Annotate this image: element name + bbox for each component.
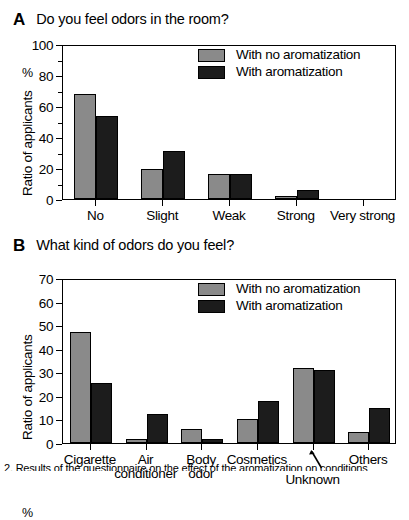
panel-b-y-tick-label: 10: [39, 414, 53, 427]
panel-a-x-tick: [95, 200, 96, 206]
legend-swatch-aromatization: [198, 300, 225, 313]
panel-a-y-tick-label: 80: [39, 70, 53, 83]
bar-weak-no-aromatization: [208, 174, 230, 199]
panel-b-heading: B What kind of odors do you feel?: [13, 234, 234, 256]
panel-a-y-axis: 020406080100: [0, 45, 62, 200]
panel-a-heading: A Do you feel odors in the room?: [13, 8, 229, 30]
legend-label: With no aromatization: [236, 48, 360, 62]
bar-air-conditioner-aromatization: [147, 414, 168, 443]
x-axis-label-no: No: [87, 209, 104, 223]
panel-a: A Do you feel odors in the room? % Ratio…: [0, 0, 409, 228]
x-axis-label-strong: Strong: [277, 209, 315, 223]
bar-cosmetics-aromatization: [258, 401, 279, 443]
bar-no-no-aromatization: [74, 94, 96, 199]
legend-swatch-no-aromatization: [198, 283, 225, 296]
panel-a-question: Do you feel odors in the room?: [36, 12, 228, 27]
bar-slight-no-aromatization: [141, 169, 163, 199]
legend-swatch-aromatization: [198, 66, 225, 79]
legend-item: With no aromatization: [198, 282, 360, 296]
legend-label: With aromatization: [236, 65, 342, 79]
panel-a-y-tick-label: 40: [39, 132, 53, 145]
panel-b-x-tick: [368, 444, 369, 450]
bar-cosmetics-no-aromatization: [237, 419, 258, 443]
bar-slight-aromatization: [163, 151, 185, 199]
bar-air-conditioner-no-aromatization: [126, 439, 147, 443]
bar-body-odor-no-aromatization: [181, 429, 202, 443]
bar-weak-aromatization: [230, 174, 252, 199]
panel-a-y-tick: [56, 200, 62, 201]
panel-b: B What kind of odors do you feel? % Rati…: [0, 226, 409, 471]
bar-others-no-aromatization: [348, 432, 369, 443]
bar-cigarette-aromatization: [91, 383, 112, 443]
panel-a-x-tick: [363, 200, 364, 206]
bar-unknown-aromatization: [314, 370, 335, 443]
legend-item: With aromatization: [198, 65, 360, 79]
panel-a-y-tick-label: 60: [39, 101, 53, 114]
legend-label: With no aromatization: [236, 282, 360, 296]
panel-a-letter: A: [13, 11, 25, 28]
panel-b-x-tick: [257, 444, 258, 450]
panel-b-x-tick: [146, 444, 147, 450]
panel-a-legend: With no aromatizationWith aromatization: [198, 48, 360, 82]
panel-b-letter: B: [13, 237, 25, 254]
panel-b-y-tick-label: 50: [39, 320, 53, 333]
panel-b-y-tick-label: 60: [39, 296, 53, 309]
panel-b-y-axis: 010203040506070: [0, 279, 62, 444]
panel-a-y-tick-label: 0: [46, 194, 53, 207]
panel-b-x-tick: [201, 444, 202, 450]
figure-caption: 2. Results of the questionnaire on the e…: [4, 462, 409, 471]
panel-a-y-tick-label: 100: [32, 39, 53, 52]
panel-a-x-tick: [229, 200, 230, 206]
panel-b-question: What kind of odors do you feel?: [36, 238, 234, 253]
x-axis-label-weak: Weak: [212, 209, 245, 223]
legend-item: With aromatization: [198, 299, 360, 313]
legend-item: With no aromatization: [198, 48, 360, 62]
x-axis-label-slight: Slight: [146, 209, 178, 223]
panel-a-x-tick: [162, 200, 163, 206]
bar-body-odor-aromatization: [202, 439, 223, 443]
panel-b-y-tick-label: 20: [39, 390, 53, 403]
panel-b-y-tick-label: 0: [46, 438, 53, 451]
panel-b-x-tick: [90, 444, 91, 450]
bar-unknown-no-aromatization: [293, 368, 314, 443]
panel-b-legend: With no aromatizationWith aromatization: [198, 282, 360, 316]
bar-strong-aromatization: [297, 190, 319, 199]
panel-a-y-tick-label: 20: [39, 163, 53, 176]
panel-b-y-tick-label: 70: [39, 273, 53, 286]
legend-swatch-no-aromatization: [198, 49, 225, 62]
panel-a-x-tick: [296, 200, 297, 206]
x-axis-label-very-strong: Very strong: [330, 209, 395, 223]
bar-strong-no-aromatization: [275, 196, 297, 199]
x-axis-label-unknown: Unknown: [285, 473, 339, 487]
bar-cigarette-no-aromatization: [70, 332, 91, 443]
panel-b-y-tick-label: 40: [39, 343, 53, 356]
panel-b-y-unit: %: [22, 506, 33, 520]
panel-b-y-tick: [56, 444, 62, 445]
legend-label: With aromatization: [236, 299, 342, 313]
panel-b-y-tick-label: 30: [39, 367, 53, 380]
bar-no-aromatization: [96, 116, 118, 199]
bar-others-aromatization: [369, 408, 390, 443]
